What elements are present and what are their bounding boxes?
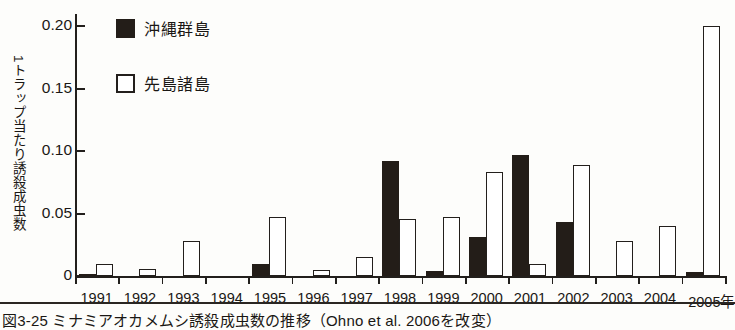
- x-tick-label-1999: 1999: [427, 290, 459, 306]
- legend-label-okinawa: 沖縄群島: [144, 16, 210, 40]
- x-tick-3: [205, 276, 207, 284]
- x-tick-label-1993: 1993: [167, 290, 199, 306]
- bar-okinawa-2002: [556, 222, 573, 276]
- y-tick-1: 0.05: [77, 213, 85, 215]
- x-tick-label-2001: 2001: [514, 290, 546, 306]
- x-tick-0: [75, 276, 77, 284]
- x-tick-label-1998: 1998: [384, 290, 416, 306]
- legend: 沖縄群島 先島諸島: [116, 16, 210, 126]
- bar-okinawa-1999: [426, 271, 443, 276]
- x-tick-label-1994: 1994: [211, 290, 243, 306]
- x-tick-8: [422, 276, 424, 284]
- x-tick-14: [682, 276, 684, 284]
- y-axis-line: [75, 14, 77, 278]
- bar-sakishima-2003: [616, 241, 633, 276]
- x-tick-label-2004: 2004: [644, 290, 676, 306]
- legend-swatch-outline-white-square: [116, 74, 135, 93]
- figure-container: 1トラップ当たり誘殺成虫数 00.050.100.150.20 19911992…: [0, 0, 735, 330]
- x-tick-label-2005: 2005年: [688, 290, 734, 311]
- y-tick-label-1: 0.05: [42, 203, 72, 221]
- bar-okinawa-1998: [382, 161, 399, 276]
- x-tick-11: [552, 276, 554, 284]
- bar-sakishima-1999: [443, 217, 460, 276]
- y-tick-label-3: 0.15: [42, 78, 72, 96]
- y-tick-4: 0.20: [77, 25, 85, 27]
- x-tick-label-1991: 1991: [81, 290, 113, 306]
- x-tick-1: [118, 276, 120, 284]
- x-tick-4: [248, 276, 250, 284]
- bar-sakishima-1992: [139, 269, 156, 276]
- bar-sakishima-1996: [313, 270, 330, 276]
- y-tick-3: 0.15: [77, 88, 85, 90]
- y-axis-title: 1トラップ当たり誘殺成虫数: [4, 18, 26, 268]
- x-tick-label-2002: 2002: [557, 290, 589, 306]
- x-tick-label-2000: 2000: [471, 290, 503, 306]
- x-tick-label-1992: 1992: [124, 290, 156, 306]
- y-tick-2: 0.10: [77, 150, 85, 152]
- bar-sakishima-1998: [399, 219, 416, 276]
- bar-sakishima-1995: [269, 217, 286, 276]
- bar-okinawa-2000: [469, 237, 486, 276]
- x-axis-line: [75, 276, 725, 278]
- bar-okinawa-2005: [686, 272, 703, 276]
- legend-label-sakishima: 先島諸島: [144, 71, 210, 95]
- bar-okinawa-1995: [252, 264, 269, 276]
- bar-sakishima-1991: [96, 264, 113, 276]
- bar-sakishima-2000: [486, 172, 503, 276]
- bar-sakishima-2001: [529, 264, 546, 276]
- x-tick-2: [162, 276, 164, 284]
- bar-okinawa-1991: [79, 274, 96, 276]
- legend-swatch-filled-black-square: [116, 19, 135, 38]
- x-tick-label-2003: 2003: [601, 290, 633, 306]
- bar-okinawa-2001: [512, 155, 529, 276]
- x-tick-5: [292, 276, 294, 284]
- x-tick-15: [725, 276, 727, 284]
- legend-item-okinawa: 沖縄群島: [116, 16, 210, 40]
- x-tick-13: [638, 276, 640, 284]
- x-tick-12: [595, 276, 597, 284]
- bar-sakishima-1993: [183, 241, 200, 276]
- caption-divider: [0, 302, 735, 304]
- y-tick-label-2: 0.10: [42, 141, 72, 159]
- bar-sakishima-2004: [659, 226, 676, 276]
- bar-sakishima-1997: [356, 257, 373, 276]
- x-tick-7: [378, 276, 380, 284]
- legend-item-sakishima: 先島諸島: [116, 71, 210, 95]
- y-tick-label-0: 0: [63, 266, 72, 284]
- x-tick-label-1997: 1997: [341, 290, 373, 306]
- x-tick-9: [465, 276, 467, 284]
- bar-sakishima-2002: [573, 165, 590, 276]
- x-tick-label-1996: 1996: [297, 290, 329, 306]
- x-tick-6: [335, 276, 337, 284]
- figure-caption: 図3-25 ミナミアオカメムシ誘殺成虫数の推移（Ohno et al. 2006…: [2, 309, 735, 330]
- y-tick-label-4: 0.20: [42, 16, 72, 34]
- bar-sakishima-2005: [703, 26, 720, 276]
- x-tick-10: [508, 276, 510, 284]
- x-tick-label-1995: 1995: [254, 290, 286, 306]
